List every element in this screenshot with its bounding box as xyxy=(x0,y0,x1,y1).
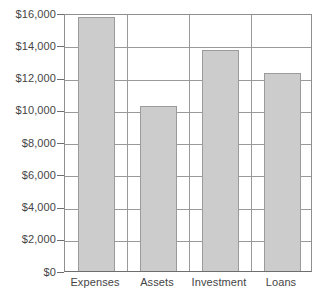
bar-investment[interactable] xyxy=(202,50,239,271)
x-axis-tick-label-loans: Loans xyxy=(221,277,331,288)
y-axis-tick-label: $14,000 xyxy=(16,41,56,52)
category-separator xyxy=(127,15,128,271)
y-axis-tick-mark xyxy=(57,46,64,47)
bar-assets[interactable] xyxy=(140,106,177,271)
y-axis-tick-mark xyxy=(57,208,64,209)
y-axis-tick-label: $12,000 xyxy=(16,73,56,84)
y-axis-tick-mark xyxy=(57,175,64,176)
bar-chart: $16,000 $14,000 $12,000 $10,000 $8,000 $… xyxy=(0,0,331,306)
bar-expenses[interactable] xyxy=(78,17,115,271)
plot-area xyxy=(64,14,312,272)
y-axis-tick-mark xyxy=(57,143,64,144)
category-separator xyxy=(251,15,252,271)
bar-loans[interactable] xyxy=(264,73,301,271)
y-axis-tick-label: $8,000 xyxy=(22,138,56,149)
y-axis-tick-label: $0 xyxy=(44,267,56,278)
y-axis-tick-mark xyxy=(57,111,64,112)
y-axis-tick-mark xyxy=(57,79,64,80)
y-axis-tick-label: $4,000 xyxy=(22,202,56,213)
y-axis-tick-mark xyxy=(57,240,64,241)
y-axis-tick-label: $6,000 xyxy=(22,170,56,181)
y-axis-tick-mark xyxy=(57,14,64,15)
y-axis-tick-label: $16,000 xyxy=(16,9,56,20)
y-axis-tick-label: $2,000 xyxy=(22,234,56,245)
y-axis-tick-label: $10,000 xyxy=(16,105,56,116)
y-axis-tick-mark xyxy=(57,272,64,273)
category-separator xyxy=(189,15,190,271)
